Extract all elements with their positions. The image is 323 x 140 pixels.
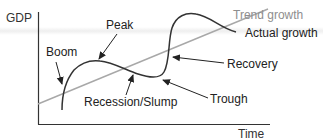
actual-growth-label: Actual growth <box>245 27 318 39</box>
trough-label: Trough <box>210 93 248 105</box>
y-axis-label: GDP <box>6 12 32 24</box>
recovery-label: Recovery <box>227 58 278 70</box>
recession-pointer <box>126 75 133 95</box>
peak-label: Peak <box>106 19 133 31</box>
peak-pointer <box>99 34 117 59</box>
recession-label: Recession/Slump <box>84 96 177 108</box>
x-axis-label: Time <box>238 128 264 140</box>
boom-label: Boom <box>46 46 77 58</box>
trend-growth-label: Trend growth <box>233 9 303 21</box>
boom-pointer <box>56 62 62 84</box>
recovery-pointer <box>173 57 224 63</box>
